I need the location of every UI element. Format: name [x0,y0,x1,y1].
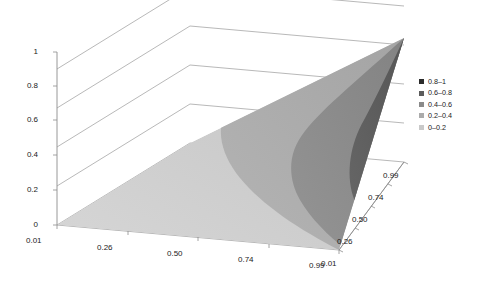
legend-item-label: 0.2–0.4 [428,112,452,119]
z-axis-ticks [53,52,57,225]
legend-swatch-icon [419,102,424,107]
legend-swatch-icon [419,125,424,130]
y-tick-label-0.99: 0.99 [383,172,399,180]
legend-swatch-icon [419,113,424,118]
z-tick-label-0: 0 [18,221,38,229]
legend-item-1[interactable]: 0.6–0.8 [419,87,477,98]
x-tick-label-0.74: 0.74 [238,256,254,264]
z-tick-label-0.2: 0.2 [14,186,38,194]
x-tick-label-0.26: 0.26 [97,244,113,252]
z-tick-label-0.4: 0.4 [14,151,38,159]
legend-item-0[interactable]: 0.8–1 [419,76,477,87]
legend-item-label: 0.6–0.8 [428,89,452,96]
y-tick-label-0.26: 0.26 [337,238,353,246]
legend-item-3[interactable]: 0.2–0.4 [419,110,477,121]
z-tick-label-0.6: 0.6 [14,116,38,124]
legend: 0.8–1 0.6–0.8 0.4–0.6 0.2–0.4 0–0.2 [419,76,477,133]
surface-chart: 1 0.8 0.6 0.4 0.2 0 0.01 0.26 0.50 0.74 … [0,0,478,292]
legend-item-label: 0.8–1 [428,78,446,85]
z-tick-label-1: 1 [18,48,38,56]
x-tick-label-0.01: 0.01 [26,237,42,245]
legend-item-label: 0.4–0.6 [428,101,452,108]
z-tick-label-0.8: 0.8 [14,82,38,90]
legend-item-2[interactable]: 0.4–0.6 [419,99,477,110]
legend-swatch-icon [419,79,424,84]
y-tick-label-0.74: 0.74 [368,194,384,202]
x-tick-label-0.50: 0.50 [167,250,183,258]
legend-item-4[interactable]: 0–0.2 [419,122,477,133]
y-tick-label-0.01: 0.01 [321,260,337,268]
legend-swatch-icon [419,91,424,96]
y-tick-label-0.50: 0.50 [352,216,368,224]
plot-area [0,0,478,292]
legend-item-label: 0–0.2 [428,124,446,131]
